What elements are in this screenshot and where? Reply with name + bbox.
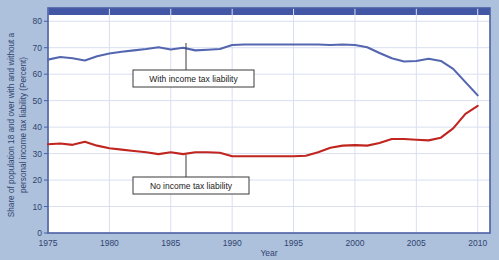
y-tick-label: 60 [33, 69, 43, 79]
x-axis-title: Year [260, 248, 277, 258]
y-tick-label: 20 [33, 175, 43, 185]
chart-figure: 01020304050607080 1975198019851990199520… [0, 0, 499, 260]
y-tick-label: 70 [33, 43, 43, 53]
y-tick-label: 0 [37, 228, 42, 238]
y-tick-label: 80 [33, 16, 43, 26]
y-axis-tick-labels: 01020304050607080 [33, 16, 48, 238]
annotation-label: No income tax liability [150, 181, 233, 191]
annotation-label: With income tax liability [149, 74, 238, 84]
income-tax-liability-line-chart: 01020304050607080 1975198019851990199520… [0, 0, 499, 260]
y-axis-title-line-2: personal income tax liability (Percent) [19, 57, 28, 193]
x-tick-label: 1990 [223, 238, 242, 248]
x-tick-label: 2010 [468, 238, 487, 248]
x-tick-label: 2000 [345, 238, 364, 248]
y-axis-title-line-1: Share of population 18 and over with and… [7, 32, 16, 217]
x-tick-label: 1995 [284, 238, 303, 248]
plot-area-background [48, 8, 490, 233]
x-tick-label: 1980 [100, 238, 119, 248]
x-axis-tick-labels: 19751980198519901995200020052010 [39, 238, 488, 248]
y-tick-label: 10 [33, 202, 43, 212]
x-tick-label: 1975 [39, 238, 58, 248]
x-tick-label: 1985 [161, 238, 180, 248]
y-tick-label: 40 [33, 122, 43, 132]
y-tick-label: 50 [33, 96, 43, 106]
x-tick-label: 2005 [407, 238, 426, 248]
chart-header-bar [48, 8, 490, 15]
y-tick-label: 30 [33, 149, 43, 159]
